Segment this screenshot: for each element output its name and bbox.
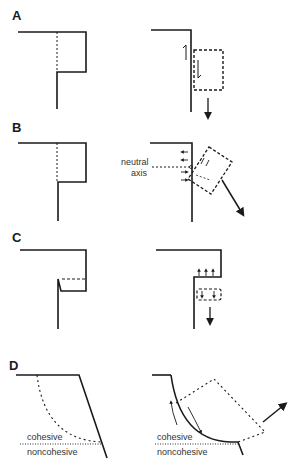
noncohesive-label-right: noncohesive xyxy=(157,447,208,457)
panel-c-label: C xyxy=(12,230,22,245)
neutral-axis-label-2: axis xyxy=(131,168,148,178)
panel-b-before xyxy=(18,143,86,221)
noncohesive-label: noncohesive xyxy=(27,447,78,457)
panel-a: A xyxy=(12,8,223,116)
failure-slab xyxy=(197,289,221,300)
panel-b-label: B xyxy=(12,120,21,135)
panel-d-after xyxy=(152,375,284,455)
panel-a-after xyxy=(151,30,223,116)
panel-a-before xyxy=(18,32,86,109)
slide-arrow-icon xyxy=(263,405,284,422)
bank-failure-diagram: A B xyxy=(0,0,305,473)
panel-c-after xyxy=(156,250,221,329)
panel-d: D cohesive noncohesive cohesive noncohes… xyxy=(9,358,284,458)
neutral-axis-label-1: neutral xyxy=(121,157,149,167)
panel-a-label: A xyxy=(12,8,22,23)
topple-arrow-icon xyxy=(222,180,242,213)
cohesive-label: cohesive xyxy=(27,432,63,442)
panel-c: C xyxy=(12,230,221,329)
cohesive-label-right: cohesive xyxy=(157,432,193,442)
panel-d-before xyxy=(16,375,107,458)
panel-c-before xyxy=(20,250,86,329)
panel-b-after xyxy=(150,143,242,222)
rotational-slip-surface xyxy=(171,375,243,455)
panel-d-label: D xyxy=(9,358,18,373)
panel-b: B neutral axis xyxy=(12,120,242,222)
